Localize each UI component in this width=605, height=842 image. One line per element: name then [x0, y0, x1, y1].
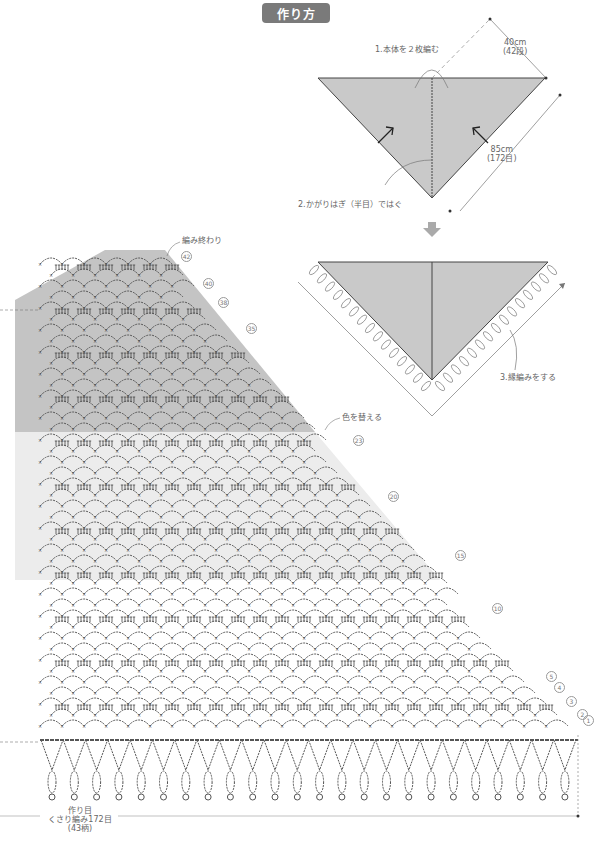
svg-text:×: × — [324, 547, 328, 553]
svg-text:×: × — [225, 360, 229, 366]
svg-text:×: × — [291, 580, 295, 586]
svg-text:×: × — [313, 712, 317, 718]
svg-text:×: × — [247, 646, 251, 652]
svg-text:×: × — [203, 580, 207, 586]
svg-text:×: × — [203, 470, 207, 476]
svg-text:×: × — [82, 679, 86, 685]
svg-text:×: × — [291, 624, 295, 630]
svg-text:×: × — [71, 470, 75, 476]
svg-text:×: × — [104, 547, 108, 553]
svg-text:×: × — [60, 503, 64, 509]
svg-text:×: × — [49, 536, 53, 542]
svg-text:×: × — [269, 690, 273, 696]
svg-text:×: × — [500, 723, 504, 729]
svg-text:×: × — [148, 371, 152, 377]
svg-text:×: × — [269, 404, 273, 410]
svg-text:×: × — [82, 327, 86, 333]
svg-text:×: × — [291, 448, 295, 454]
svg-text:×: × — [390, 591, 394, 597]
svg-text:×: × — [445, 624, 449, 630]
svg-text:×: × — [379, 624, 383, 630]
svg-text:×: × — [38, 393, 42, 399]
svg-text:×: × — [335, 514, 339, 520]
svg-text:×: × — [137, 426, 141, 432]
svg-text:×: × — [522, 723, 526, 729]
svg-text:×: × — [291, 470, 295, 476]
svg-text:×: × — [280, 415, 284, 421]
svg-text:×: × — [71, 404, 75, 410]
step2-label: 2.かがりはぎ（半目）ではぐ — [298, 200, 402, 209]
svg-text:×: × — [170, 371, 174, 377]
step1-label: 1.本体を２枚編む — [375, 45, 439, 54]
svg-text:×: × — [203, 382, 207, 388]
svg-text:×: × — [401, 602, 405, 608]
svg-text:×: × — [115, 690, 119, 696]
svg-text:×: × — [148, 635, 152, 641]
svg-text:×: × — [126, 635, 130, 641]
end-label: 編み終わり — [182, 236, 222, 245]
svg-text:×: × — [192, 327, 196, 333]
svg-text:×: × — [71, 580, 75, 586]
svg-text:×: × — [159, 602, 163, 608]
svg-text:×: × — [71, 360, 75, 366]
svg-text:×: × — [214, 635, 218, 641]
svg-text:×: × — [170, 591, 174, 597]
svg-text:×: × — [467, 646, 471, 652]
svg-text:×: × — [181, 690, 185, 696]
svg-text:×: × — [104, 679, 108, 685]
svg-text:×: × — [489, 690, 493, 696]
svg-text:×: × — [82, 459, 86, 465]
svg-text:×: × — [115, 536, 119, 542]
svg-text:×: × — [368, 723, 372, 729]
svg-text:×: × — [434, 679, 438, 685]
svg-text:×: × — [38, 327, 42, 333]
svg-text:×: × — [49, 602, 53, 608]
svg-text:×: × — [346, 723, 350, 729]
svg-text:×: × — [258, 547, 262, 553]
svg-text:×: × — [214, 679, 218, 685]
svg-text:×: × — [93, 624, 97, 630]
svg-text:×: × — [192, 459, 196, 465]
svg-text:×: × — [93, 536, 97, 542]
svg-text:×: × — [181, 338, 185, 344]
svg-text:×: × — [357, 514, 361, 520]
svg-text:×: × — [467, 712, 471, 718]
svg-text:×: × — [148, 679, 152, 685]
svg-text:×: × — [313, 602, 317, 608]
svg-text:×: × — [489, 712, 493, 718]
schematic-triangle-bottom — [298, 262, 565, 416]
svg-text:×: × — [203, 448, 207, 454]
svg-text:×: × — [258, 503, 262, 509]
svg-text:×: × — [159, 690, 163, 696]
svg-text:×: × — [148, 459, 152, 465]
svg-text:×: × — [49, 272, 53, 278]
svg-text:×: × — [313, 492, 317, 498]
svg-text:×: × — [38, 679, 42, 685]
svg-text:×: × — [38, 459, 42, 465]
svg-text:×: × — [280, 723, 284, 729]
svg-text:×: × — [93, 514, 97, 520]
svg-text:×: × — [181, 624, 185, 630]
svg-text:×: × — [368, 679, 372, 685]
svg-text:×: × — [500, 679, 504, 685]
svg-text:×: × — [49, 316, 53, 322]
svg-text:×: × — [60, 371, 64, 377]
svg-text:×: × — [181, 712, 185, 718]
svg-text:×: × — [269, 712, 273, 718]
svg-text:×: × — [93, 426, 97, 432]
svg-text:×: × — [49, 382, 53, 388]
svg-text:×: × — [148, 591, 152, 597]
svg-text:×: × — [93, 448, 97, 454]
svg-text:×: × — [159, 668, 163, 674]
svg-text:×: × — [181, 580, 185, 586]
svg-text:×: × — [247, 690, 251, 696]
svg-text:×: × — [269, 558, 273, 564]
svg-text:×: × — [357, 712, 361, 718]
svg-text:×: × — [258, 459, 262, 465]
svg-text:×: × — [203, 558, 207, 564]
svg-text:×: × — [115, 514, 119, 520]
svg-text:×: × — [412, 723, 416, 729]
svg-text:×: × — [203, 514, 207, 520]
svg-text:×: × — [313, 646, 317, 652]
svg-text:×: × — [192, 415, 196, 421]
